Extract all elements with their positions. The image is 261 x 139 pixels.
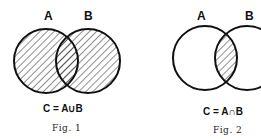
set-b-label: B xyxy=(245,9,254,23)
set-a-label: A xyxy=(44,9,53,23)
set-a-label: A xyxy=(197,9,206,23)
figure-2-intersection: A B C = A∩B Fig. 2 xyxy=(173,9,261,135)
formula: C = A∩B xyxy=(203,106,243,117)
formula: C = A∪B xyxy=(43,103,83,114)
caption: Fig. 1 xyxy=(52,123,81,133)
figure-1-union: A B C = A∪B Fig. 1 xyxy=(14,9,120,133)
set-b-label: B xyxy=(84,9,93,23)
venn-diagrams: A B C = A∪B Fig. 1 A B C = A∩B Fig. 2 xyxy=(0,0,261,139)
caption: Fig. 2 xyxy=(213,125,242,135)
